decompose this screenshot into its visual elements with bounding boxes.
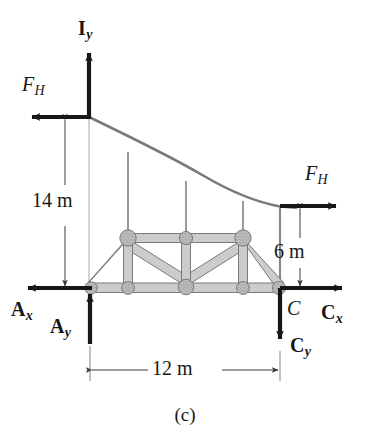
label-force-ay-base: A [50, 315, 64, 337]
label-force-cx: Cx [321, 302, 343, 326]
label-force-iy-sub: y [86, 27, 93, 42]
figure-container: Iy FH FH 14 m 6 m Ax Ay C Cx Cy 12 m (c) [0, 0, 370, 443]
figure-caption: (c) [0, 404, 370, 426]
label-force-iy-base: I [78, 17, 86, 39]
label-force-cx-sub: x [335, 311, 342, 326]
label-force-fh-right-sub: H [317, 172, 328, 187]
joint-top-186 [179, 231, 192, 244]
label-force-fh-left-base: F [22, 73, 34, 95]
figure-caption-text: (c) [174, 404, 195, 425]
label-force-fh-left: FH [22, 74, 45, 98]
dimension-14m-text: 14 m [32, 189, 73, 211]
label-force-cy: Cy [290, 335, 311, 359]
label-dimension-12m: 12 m [152, 358, 193, 378]
label-force-iy: Iy [78, 18, 92, 42]
label-point-c: C [287, 298, 300, 318]
label-dimension-14m: 14 m [32, 190, 73, 210]
label-dimension-6m: 6 m [274, 241, 305, 261]
label-force-ax-sub: x [25, 308, 32, 323]
dimension-12m-text: 12 m [152, 357, 193, 379]
joint-top-243 [235, 230, 251, 246]
label-force-cy-base: C [290, 334, 304, 356]
label-force-ax: Ax [11, 299, 33, 323]
label-force-fh-right: FH [305, 163, 328, 187]
suspension-cable [89, 117, 296, 208]
label-force-cx-base: C [321, 301, 335, 323]
joint-bottom-186 [178, 279, 194, 295]
diagonal-mid-left [125, 242, 190, 285]
dimension-6m-text: 6 m [274, 240, 305, 262]
label-force-ax-base: A [11, 298, 25, 320]
label-force-ay: Ay [50, 316, 71, 340]
label-point-c-base: C [287, 297, 300, 319]
label-force-cy-sub: y [304, 344, 311, 359]
diagonal-mid-right [183, 242, 247, 285]
truss-structure [85, 230, 286, 295]
label-force-fh-right-base: F [305, 162, 317, 184]
joint-top-128 [120, 230, 136, 246]
joint-bottom-128 [122, 282, 135, 295]
label-force-fh-left-sub: H [34, 83, 45, 98]
joint-bottom-243 [237, 282, 250, 295]
label-force-ay-sub: y [64, 325, 71, 340]
